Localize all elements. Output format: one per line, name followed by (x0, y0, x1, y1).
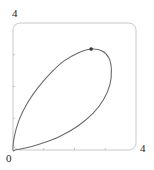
marked-point (89, 47, 93, 51)
axis-ticks (13, 55, 105, 150)
plot-area (0, 0, 154, 170)
plot-frame (13, 23, 136, 150)
curve-line (13, 49, 111, 151)
